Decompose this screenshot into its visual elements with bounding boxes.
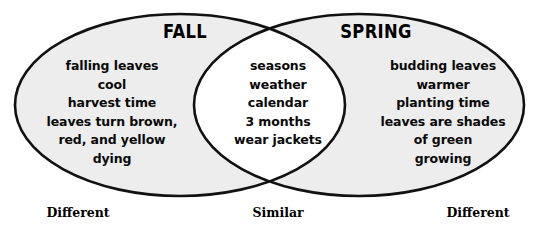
- list-item: calendar: [248, 94, 308, 113]
- list-item: cool: [98, 76, 126, 95]
- region-label-similar: Similar: [220, 205, 336, 220]
- region-label-different-right: Different: [420, 205, 536, 220]
- list-item: seasons: [250, 57, 306, 76]
- item-list-spring: budding leaves warmer planting time leav…: [362, 57, 524, 169]
- list-item: leaves are shades of green: [381, 113, 506, 150]
- list-item: weather: [249, 76, 306, 95]
- list-item: dying: [93, 150, 132, 169]
- list-item: growing: [415, 150, 472, 169]
- list-item: falling leaves: [66, 57, 159, 76]
- list-item: budding leaves: [390, 57, 496, 76]
- list-item: planting time: [396, 94, 490, 113]
- list-item: leaves turn brown, red, and yellow: [46, 113, 177, 150]
- item-list-similar: seasons weather calendar 3 months wear j…: [205, 57, 351, 150]
- list-item: warmer: [416, 76, 469, 95]
- region-label-different-left: Different: [20, 205, 136, 220]
- list-item: wear jackets: [234, 131, 322, 150]
- list-item: 3 months: [245, 113, 310, 132]
- list-item: harvest time: [68, 94, 156, 113]
- venn-diagram: FALL SPRING falling leaves cool harvest …: [0, 0, 540, 236]
- item-list-fall: falling leaves cool harvest time leaves …: [32, 57, 192, 169]
- set-title-spring: SPRING: [324, 20, 427, 42]
- set-title-fall: FALL: [138, 20, 233, 42]
